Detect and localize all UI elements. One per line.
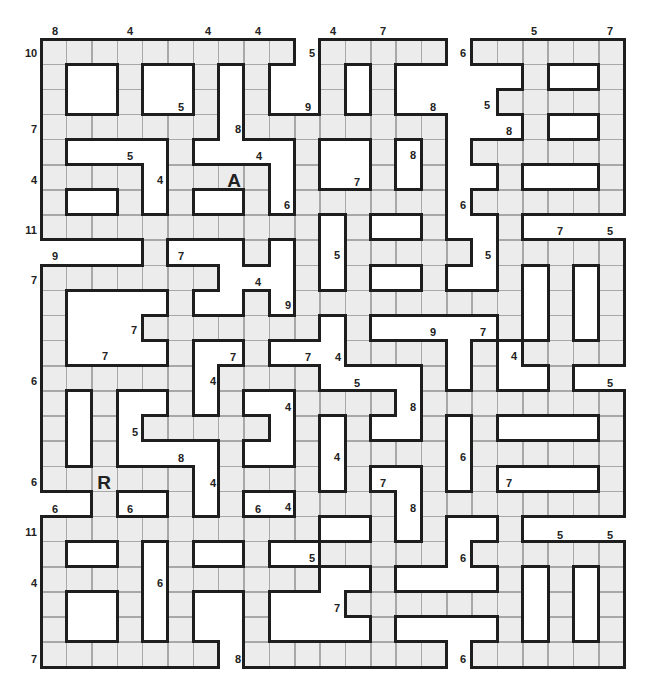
grid-cell[interactable] bbox=[117, 541, 143, 567]
grid-cell[interactable] bbox=[295, 139, 321, 165]
grid-cell[interactable] bbox=[244, 290, 270, 316]
grid-cell[interactable] bbox=[599, 64, 625, 90]
grid-cell[interactable] bbox=[447, 290, 473, 316]
grid-cell[interactable] bbox=[548, 642, 574, 668]
grid-cell[interactable] bbox=[573, 391, 599, 417]
grid-cell[interactable] bbox=[193, 165, 219, 191]
grid-cell[interactable] bbox=[117, 592, 143, 618]
grid-cell[interactable] bbox=[523, 541, 549, 567]
grid-cell[interactable] bbox=[523, 139, 549, 165]
grid-cell[interactable] bbox=[497, 391, 523, 417]
grid-cell[interactable] bbox=[599, 114, 625, 140]
grid-cell[interactable] bbox=[421, 240, 447, 266]
grid-cell[interactable] bbox=[573, 441, 599, 467]
grid-cell[interactable] bbox=[345, 416, 371, 442]
grid-cell[interactable] bbox=[117, 567, 143, 593]
grid-cell[interactable] bbox=[523, 64, 549, 90]
grid-cell[interactable] bbox=[371, 139, 397, 165]
grid-cell[interactable] bbox=[599, 592, 625, 618]
grid-cell[interactable] bbox=[497, 240, 523, 266]
grid-cell[interactable] bbox=[371, 290, 397, 316]
grid-cell[interactable] bbox=[295, 491, 321, 517]
grid-cell[interactable] bbox=[117, 64, 143, 90]
grid-cell[interactable] bbox=[599, 190, 625, 216]
grid-cell[interactable] bbox=[168, 642, 194, 668]
grid-cell[interactable] bbox=[599, 290, 625, 316]
grid-cell[interactable] bbox=[41, 340, 67, 366]
grid-cell[interactable] bbox=[168, 39, 194, 65]
grid-cell[interactable] bbox=[117, 617, 143, 643]
grid-cell[interactable] bbox=[371, 39, 397, 65]
grid-cell[interactable] bbox=[218, 416, 244, 442]
grid-cell[interactable] bbox=[269, 366, 295, 392]
grid-cell[interactable] bbox=[66, 265, 92, 291]
grid-cell[interactable] bbox=[599, 617, 625, 643]
grid-cell[interactable] bbox=[497, 165, 523, 191]
grid-cell[interactable] bbox=[599, 567, 625, 593]
grid-cell[interactable] bbox=[421, 592, 447, 618]
grid-cell[interactable] bbox=[142, 114, 168, 140]
grid-cell[interactable] bbox=[573, 39, 599, 65]
grid-cell[interactable] bbox=[523, 491, 549, 517]
grid-cell[interactable] bbox=[472, 290, 498, 316]
grid-cell[interactable] bbox=[548, 567, 574, 593]
grid-cell[interactable] bbox=[396, 642, 422, 668]
grid-cell[interactable] bbox=[548, 190, 574, 216]
grid-cell[interactable] bbox=[599, 391, 625, 417]
grid-cell[interactable] bbox=[41, 114, 67, 140]
grid-cell[interactable] bbox=[421, 441, 447, 467]
grid-cell[interactable] bbox=[497, 617, 523, 643]
grid-cell[interactable] bbox=[41, 366, 67, 392]
grid-cell[interactable] bbox=[548, 139, 574, 165]
grid-cell[interactable] bbox=[244, 64, 270, 90]
grid-cell[interactable] bbox=[66, 642, 92, 668]
grid-cell[interactable] bbox=[295, 466, 321, 492]
grid-cell[interactable] bbox=[295, 391, 321, 417]
grid-cell[interactable] bbox=[117, 39, 143, 65]
grid-cell[interactable] bbox=[244, 215, 270, 241]
grid-cell[interactable] bbox=[117, 89, 143, 115]
grid-cell[interactable] bbox=[320, 64, 346, 90]
grid-cell[interactable] bbox=[497, 290, 523, 316]
grid-cell[interactable] bbox=[218, 366, 244, 392]
grid-cell[interactable] bbox=[421, 491, 447, 517]
grid-cell[interactable] bbox=[168, 114, 194, 140]
grid-cell[interactable] bbox=[41, 315, 67, 341]
grid-cell[interactable] bbox=[371, 567, 397, 593]
grid-cell[interactable] bbox=[117, 215, 143, 241]
grid-cell[interactable] bbox=[371, 114, 397, 140]
grid-cell[interactable] bbox=[396, 240, 422, 266]
grid-cell[interactable] bbox=[497, 516, 523, 542]
grid-cell[interactable] bbox=[92, 516, 118, 542]
grid-cell[interactable] bbox=[345, 642, 371, 668]
grid-cell[interactable] bbox=[218, 391, 244, 417]
grid-cell[interactable] bbox=[218, 516, 244, 542]
grid-cell[interactable] bbox=[295, 165, 321, 191]
grid-cell[interactable] bbox=[320, 290, 346, 316]
grid-cell[interactable] bbox=[523, 340, 549, 366]
grid-cell[interactable] bbox=[244, 39, 270, 65]
grid-cell[interactable] bbox=[193, 89, 219, 115]
grid-cell[interactable] bbox=[421, 340, 447, 366]
grid-cell[interactable] bbox=[269, 114, 295, 140]
grid-cell[interactable] bbox=[497, 541, 523, 567]
grid-cell[interactable] bbox=[244, 642, 270, 668]
grid-cell[interactable] bbox=[66, 366, 92, 392]
grid-cell[interactable] bbox=[295, 215, 321, 241]
grid-cell[interactable] bbox=[41, 39, 67, 65]
grid-cell[interactable] bbox=[142, 215, 168, 241]
grid-cell[interactable] bbox=[396, 340, 422, 366]
grid-cell[interactable] bbox=[472, 340, 498, 366]
grid-cell[interactable] bbox=[573, 491, 599, 517]
grid-cell[interactable] bbox=[396, 114, 422, 140]
grid-cell[interactable] bbox=[244, 466, 270, 492]
grid-cell[interactable] bbox=[371, 642, 397, 668]
grid-cell[interactable] bbox=[573, 541, 599, 567]
grid-cell[interactable] bbox=[92, 491, 118, 517]
grid-cell[interactable] bbox=[599, 139, 625, 165]
grid-cell[interactable] bbox=[142, 240, 168, 266]
grid-cell[interactable] bbox=[599, 642, 625, 668]
grid-cell[interactable] bbox=[371, 89, 397, 115]
grid-cell[interactable] bbox=[168, 466, 194, 492]
grid-cell[interactable] bbox=[168, 391, 194, 417]
